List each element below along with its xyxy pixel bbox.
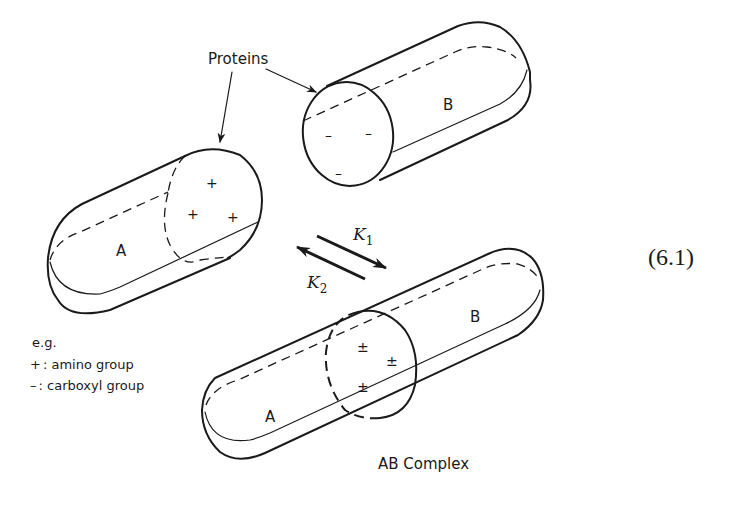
k2-label: K2	[306, 272, 327, 296]
arrow-to-protein-a-icon	[220, 72, 232, 142]
protein-a-face-icon	[185, 149, 262, 258]
charge-a-3: +	[227, 209, 239, 225]
equation-number: (6.1)	[648, 244, 694, 270]
charge-ab-3: ±	[357, 379, 369, 395]
protein-b-face-icon	[296, 76, 400, 192]
legend-item-carboxyl: –: carboxyl group	[30, 378, 144, 393]
proteins-callout: Proteins	[208, 50, 316, 142]
k1-label: K1	[352, 224, 373, 248]
protein-b-label: B	[443, 96, 453, 114]
proteins-label: Proteins	[208, 50, 269, 68]
protein-a-body-icon	[48, 156, 230, 313]
protein-a-label: A	[116, 242, 127, 260]
legend-heading: e.g.	[32, 335, 57, 350]
charge-ab-2: ±	[386, 353, 398, 369]
complex-caption: AB Complex	[378, 455, 469, 473]
charge-ab-1: ±	[357, 339, 369, 355]
protein-binding-diagram: Proteins – – – B + + + A	[0, 0, 730, 507]
protein-a: + + + A	[48, 149, 262, 313]
arrow-to-protein-b-icon	[266, 69, 316, 92]
legend-item-amino: +: amino group	[30, 357, 134, 372]
ab-complex: ± ± ± A B AB Complex	[202, 249, 543, 473]
protein-b: – – – B	[296, 22, 530, 192]
charge-a-1: +	[206, 175, 218, 191]
charge-a-2: +	[187, 206, 199, 222]
forward-arrow-icon	[317, 236, 386, 268]
charge-b-2: –	[365, 125, 372, 141]
complex-label-b: B	[470, 308, 480, 326]
charge-b-3: –	[335, 165, 342, 181]
equilibrium-arrows: K1 K2	[297, 224, 386, 296]
charge-b-1: –	[325, 127, 332, 143]
complex-body-icon	[202, 249, 543, 459]
legend: e.g. +: amino group –: carboxyl group	[30, 335, 144, 393]
protein-b-body-icon	[327, 22, 531, 180]
complex-label-a: A	[265, 408, 276, 426]
